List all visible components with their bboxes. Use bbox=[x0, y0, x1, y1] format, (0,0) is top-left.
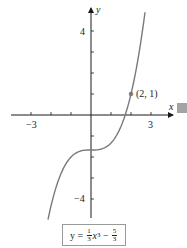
x-axis-label: x bbox=[168, 101, 174, 112]
x-tick-label-3: 3 bbox=[148, 119, 153, 130]
constant-fraction: 5 3 bbox=[112, 228, 117, 243]
const-denominator: 3 bbox=[113, 236, 117, 243]
point-marker bbox=[129, 92, 133, 96]
y-tick-label-4: 4 bbox=[80, 26, 85, 37]
point-label: (2, 1) bbox=[136, 88, 158, 100]
equation-box: y = 1 3 x3 − 5 3 bbox=[62, 224, 126, 246]
x-tick-label-neg3: −3 bbox=[26, 119, 37, 130]
equation-lhs: y = bbox=[70, 230, 83, 241]
gray-square-marker bbox=[177, 103, 187, 113]
const-numerator: 5 bbox=[113, 228, 117, 235]
coefficient-fraction: 1 3 bbox=[87, 228, 92, 243]
coef-numerator: 1 bbox=[87, 228, 91, 235]
cubic-function-plot: y x −3 3 4 −4 (2, 1) bbox=[0, 0, 187, 248]
y-axis-label: y bbox=[95, 4, 101, 15]
coef-denominator: 3 bbox=[87, 236, 91, 243]
cubic-curve bbox=[48, 12, 145, 219]
equation-power: 3 bbox=[97, 231, 101, 239]
equation-operator: − bbox=[103, 230, 109, 241]
y-tick-label-neg4: −4 bbox=[74, 193, 85, 204]
